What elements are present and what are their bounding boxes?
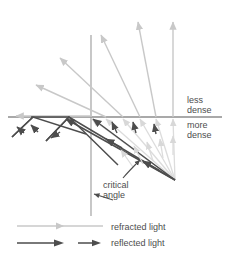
refracted-ray-5: [36, 85, 106, 117]
arrival-arrow-3: [154, 124, 156, 134]
legend-reflected-swatch: [17, 239, 101, 246]
refracted-ray-3: [101, 35, 140, 117]
incident-ray-5: [106, 119, 175, 180]
legend-label-reflected-light: reflected light: [111, 238, 165, 248]
critical-angle-leader: [123, 160, 140, 178]
legend-refracted-swatch: [17, 223, 103, 230]
legend-label-refracted-light: refracted light: [111, 222, 166, 232]
optics-diagram: less dense more dense critical angle ref…: [0, 0, 230, 265]
refracted-rays-group: [16, 22, 173, 117]
refracted-ray-2: [138, 22, 156, 117]
label-less-dense: less dense: [187, 95, 212, 115]
reflected-zigzag-1: [46, 117, 175, 180]
label-more-dense: more dense: [187, 120, 212, 140]
label-critical-angle: critical angle: [103, 180, 129, 200]
reflected-rays-group: [12, 117, 175, 180]
reflected-zigzag-5: [12, 117, 33, 137]
reflected-arrow-e: [31, 125, 38, 132]
